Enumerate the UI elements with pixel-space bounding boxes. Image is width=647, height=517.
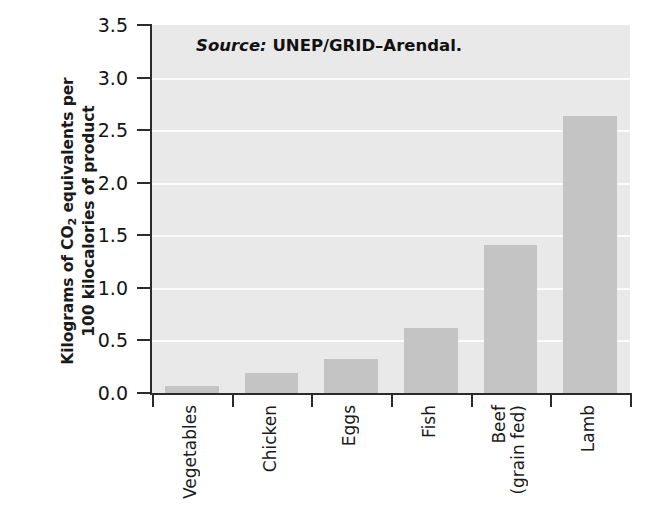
x-axis-category-label: Beef(grain fed) <box>491 405 531 517</box>
y-axis-tick-mark <box>137 392 151 394</box>
source-annotation-value: UNEP/GRID–Arendal. <box>272 36 462 55</box>
y-axis-tick-label: 3.5 <box>58 14 128 36</box>
y-axis-tick-label: 1.5 <box>58 224 128 246</box>
x-axis-category-label-line: Fish <box>421 405 438 438</box>
y-axis-tick-label: 2.5 <box>58 119 128 141</box>
y-axis-tick-mark <box>137 24 151 26</box>
x-axis-category-label: Fish <box>421 405 441 517</box>
bar <box>324 359 378 393</box>
bar-chart-figure: Kilograms of CO2 equivalents per 100 kil… <box>0 0 647 517</box>
y-axis-tick-label: 0.5 <box>58 329 128 351</box>
y-axis-tick-label: 1.0 <box>58 277 128 299</box>
x-axis-category-label: Lamb <box>580 405 600 517</box>
x-axis-category-label: Eggs <box>341 405 361 517</box>
x-axis-tick-right-end <box>630 393 632 407</box>
x-axis-category-label: Chicken <box>262 405 282 517</box>
y-axis-tick-label: 0.0 <box>58 382 128 404</box>
x-axis-category-label-line: Chicken <box>262 405 279 472</box>
y-axis-tick-mark <box>137 287 151 289</box>
plot-area <box>152 25 630 393</box>
bar-series <box>152 25 630 393</box>
x-axis-category-label-line: Vegetables <box>182 405 199 499</box>
y-axis-tick-mark <box>137 234 151 236</box>
y-axis-tick-mark <box>137 77 151 79</box>
bar <box>165 386 219 393</box>
x-axis-category-label-line: Lamb <box>580 405 597 452</box>
y-axis-tick-mark <box>137 339 151 341</box>
x-axis-category-label: Vegetables <box>182 405 202 517</box>
bar <box>245 373 299 393</box>
bar <box>563 116 617 393</box>
x-axis-category-label-line: (grain fed) <box>510 405 527 495</box>
y-axis-tick-label: 3.0 <box>58 67 128 89</box>
bar <box>484 245 538 393</box>
bar <box>404 328 458 393</box>
y-axis-tick-mark <box>137 182 151 184</box>
y-axis-tick-mark <box>137 129 151 131</box>
x-axis-category-label-line: Beef <box>491 405 508 444</box>
x-axis-category-labels: VegetablesChickenEggsFishBeef(grain fed)… <box>152 405 630 517</box>
y-axis-tick-labels: 0.00.51.01.52.02.53.03.5 <box>58 0 128 517</box>
x-axis-category-label-line: Eggs <box>341 405 358 446</box>
source-annotation-key: Source: <box>196 36 267 55</box>
source-annotation: Source: UNEP/GRID–Arendal. <box>196 36 462 55</box>
y-axis-tick-label: 2.0 <box>58 172 128 194</box>
